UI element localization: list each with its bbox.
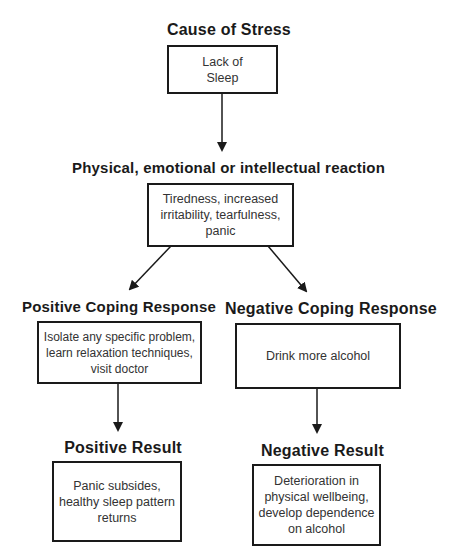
negative-coping-heading: Negative Coping Response [225,300,435,318]
reaction-heading: Physical, emotional or intellectual reac… [72,159,384,176]
reaction-box: Tiredness, increased irritability, tearf… [147,183,294,247]
cause-box-text: Lack of Sleep [202,54,242,86]
arrow-reaction-to-positive [130,246,171,289]
positive-result-box-text: Panic subsides, healthy sleep pattern re… [59,478,175,526]
negative-coping-box-text: Drink more alcohol [266,348,370,364]
positive-result-box: Panic subsides, healthy sleep pattern re… [52,461,182,542]
positive-coping-heading: Positive Coping Response [22,298,216,315]
positive-result-heading: Positive Result [62,439,184,457]
negative-result-heading: Negative Result [260,442,385,460]
cause-heading: Cause of Stress [167,21,278,39]
arrow-reaction-to-negative [268,246,306,291]
positive-coping-box-text: Isolate any specific problem, learn rela… [44,329,195,377]
cause-box: Lack of Sleep [167,45,278,94]
negative-coping-box: Drink more alcohol [235,323,401,389]
negative-result-box-text: Deterioration in physical wellbeing, dev… [258,473,374,537]
positive-coping-box: Isolate any specific problem, learn rela… [37,321,202,384]
negative-result-box: Deterioration in physical wellbeing, dev… [252,464,381,546]
reaction-box-text: Tiredness, increased irritability, tearf… [161,191,281,239]
